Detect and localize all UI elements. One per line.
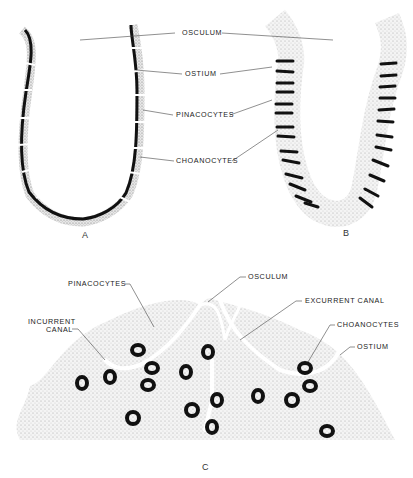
label-c-osculum: OSCULUM [248, 273, 288, 281]
label-a-osculum: OSCULUM [182, 29, 222, 37]
label-c-choanocytes: CHOANOCYTES [337, 321, 399, 329]
panel-letter-c: C [202, 462, 209, 472]
label-c-pinacocytes: PINACOCYTES [68, 280, 126, 288]
panel-letter-b: B [343, 228, 349, 238]
label-a-ostium: OSTIUM [185, 70, 217, 78]
label-c-incurrent-canal-line2: CANAL [46, 326, 73, 334]
panel-a-asconoid [18, 25, 146, 222]
label-a-pinacocytes: PINACOCYTES [176, 111, 234, 119]
label-c-excurrent-canal: EXCURRENT CANAL [305, 297, 385, 305]
panel-letter-a: A [82, 230, 88, 240]
panel-b-syconoid [275, 18, 396, 214]
label-a-choanocytes: CHOANOCYTES [176, 157, 238, 165]
label-c-ostium: OSTIUM [357, 343, 389, 351]
